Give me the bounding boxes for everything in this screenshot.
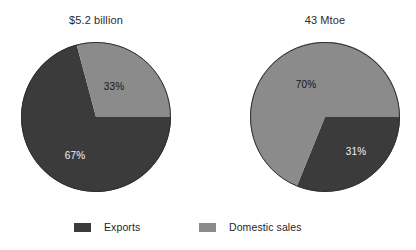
- chart-legend: Exports Domestic sales: [0, 219, 416, 235]
- right-pie-svg: [250, 42, 400, 192]
- right-domestic-sales-percent-label: 70%: [290, 79, 322, 91]
- right-pie-chart: [250, 42, 400, 192]
- right-chart-title: 43 Mtoe: [255, 14, 395, 27]
- left-domestic-sales-percent-label: 33%: [98, 81, 130, 93]
- legend-label-exports: Exports: [104, 221, 140, 234]
- left-chart-title: $5.2 billion: [26, 14, 166, 27]
- legend-item-exports: Exports: [74, 219, 140, 235]
- legend-swatch-domestic-sales: [199, 223, 216, 232]
- legend-item-domestic-sales: Domestic sales: [199, 219, 302, 235]
- left-pie-svg: [21, 42, 171, 192]
- left-exports-percent-label: 67%: [59, 150, 91, 162]
- legend-label-domestic-sales: Domestic sales: [229, 221, 302, 234]
- right-exports-percent-label: 31%: [340, 146, 372, 158]
- legend-swatch-exports: [74, 223, 91, 232]
- left-pie-chart: [21, 42, 171, 192]
- pie-charts-figure: $5.2 billion 33% 67% 43 Mtoe 70% 31% Exp…: [0, 0, 416, 250]
